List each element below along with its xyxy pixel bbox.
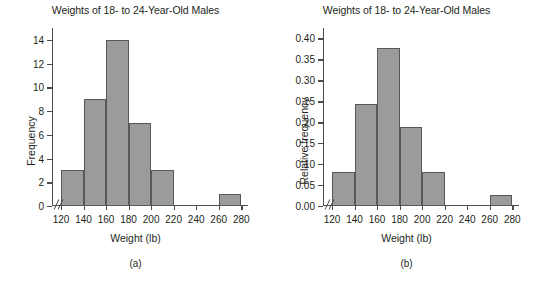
y-tick-label: 0.35 [296, 54, 315, 65]
x-tick-mark [355, 206, 356, 210]
histogram-bar [377, 48, 400, 206]
y-tick-label: 8 [38, 106, 44, 117]
y-axis-label: Frequency [25, 116, 37, 166]
panel-caption: (a) [0, 258, 271, 269]
x-tick-mark [512, 206, 513, 210]
y-tick-label: 2 [38, 177, 44, 188]
x-tick-label: 220 [165, 214, 182, 225]
x-tick-label: 140 [75, 214, 92, 225]
y-axis-line [323, 28, 324, 206]
x-tick-mark [61, 206, 62, 210]
x-axis-label: Weight (lb) [271, 232, 542, 244]
plot-area: 02468101214120140160180200220240260280 [52, 28, 248, 206]
x-tick-mark [106, 206, 107, 210]
x-tick-mark [151, 206, 152, 210]
x-axis-label: Weight (lb) [0, 232, 271, 244]
histogram-figure: Weights of 18- to 24-Year-Old MalesFrequ… [0, 0, 542, 282]
y-tick-mark [318, 38, 323, 39]
x-tick-label: 120 [53, 214, 70, 225]
y-tick-label: 0.20 [296, 117, 315, 128]
y-tick-mark [318, 164, 323, 165]
y-axis-line [52, 28, 53, 206]
y-tick-mark [318, 143, 323, 144]
histogram-bar [355, 104, 378, 206]
chart-panel-a: Weights of 18- to 24-Year-Old MalesFrequ… [0, 0, 271, 282]
y-tick-mark [47, 111, 52, 112]
y-tick-label: 0.40 [296, 33, 315, 44]
y-tick-mark [47, 87, 52, 88]
histogram-bar [106, 40, 129, 206]
x-tick-label: 200 [414, 214, 431, 225]
histogram-bar [61, 170, 84, 206]
chart-title: Weights of 18- to 24-Year-Old Males [0, 4, 271, 16]
y-tick-label: 14 [33, 34, 44, 45]
x-tick-label: 280 [233, 214, 250, 225]
x-tick-label: 280 [504, 214, 521, 225]
histogram-bar [332, 172, 355, 206]
histogram-bar [490, 195, 513, 206]
x-tick-mark [129, 206, 130, 210]
x-tick-mark [422, 206, 423, 210]
x-tick-mark [332, 206, 333, 210]
y-tick-mark [318, 59, 323, 60]
y-tick-label: 0.30 [296, 75, 315, 86]
y-tick-mark [318, 101, 323, 102]
x-tick-label: 180 [391, 214, 408, 225]
x-tick-mark [219, 206, 220, 210]
y-tick-label: 6 [38, 129, 44, 140]
y-tick-label: 0.15 [296, 138, 315, 149]
x-tick-label: 220 [436, 214, 453, 225]
x-tick-label: 260 [481, 214, 498, 225]
y-tick-mark [47, 135, 52, 136]
y-tick-mark [47, 64, 52, 65]
y-tick-mark [47, 206, 52, 207]
x-tick-label: 260 [210, 214, 227, 225]
plot-area: 0.000.050.100.150.200.250.300.350.401201… [323, 28, 519, 206]
x-tick-label: 240 [188, 214, 205, 225]
y-tick-mark [47, 40, 52, 41]
histogram-bar [400, 127, 423, 206]
y-tick-label: 0.00 [296, 201, 315, 212]
y-tick-label: 0.05 [296, 180, 315, 191]
x-tick-mark [174, 206, 175, 210]
panel-caption: (b) [271, 258, 542, 269]
y-tick-mark [47, 159, 52, 160]
x-tick-label: 140 [346, 214, 363, 225]
x-tick-mark [377, 206, 378, 210]
x-tick-label: 180 [120, 214, 137, 225]
y-tick-label: 10 [33, 82, 44, 93]
y-tick-label: 0.25 [296, 96, 315, 107]
x-tick-label: 200 [143, 214, 160, 225]
chart-title: Weights of 18- to 24-Year-Old Males [271, 4, 542, 16]
histogram-bar [219, 194, 242, 206]
y-tick-mark [318, 206, 323, 207]
y-tick-label: 12 [33, 58, 44, 69]
y-tick-label: 0.10 [296, 159, 315, 170]
chart-panel-b: Weights of 18- to 24-Year-Old MalesRelat… [271, 0, 542, 282]
x-tick-mark [490, 206, 491, 210]
histogram-bar [129, 123, 152, 206]
x-tick-mark [400, 206, 401, 210]
x-tick-mark [445, 206, 446, 210]
x-tick-mark [196, 206, 197, 210]
y-tick-mark [47, 182, 52, 183]
histogram-bar [422, 172, 445, 206]
x-tick-label: 160 [369, 214, 386, 225]
y-tick-mark [318, 122, 323, 123]
x-tick-label: 240 [459, 214, 476, 225]
x-tick-mark [84, 206, 85, 210]
y-tick-mark [318, 80, 323, 81]
x-tick-label: 160 [98, 214, 115, 225]
y-tick-label: 0 [38, 201, 44, 212]
histogram-bar [84, 99, 107, 206]
y-tick-label: 4 [38, 153, 44, 164]
y-tick-mark [318, 185, 323, 186]
histogram-bar [151, 170, 174, 206]
x-tick-mark [467, 206, 468, 210]
x-tick-mark [241, 206, 242, 210]
x-tick-label: 120 [324, 214, 341, 225]
